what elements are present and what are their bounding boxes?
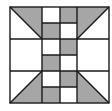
center-square [42, 23, 60, 39]
center-square [60, 39, 77, 55]
quilt-block-diagram [0, 0, 112, 111]
center-square [42, 55, 60, 71]
center-square [60, 71, 77, 87]
center-square [42, 87, 60, 103]
center-square [60, 7, 77, 23]
